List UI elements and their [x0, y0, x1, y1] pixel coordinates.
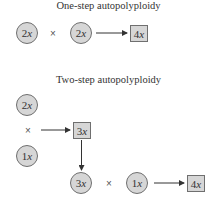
arrows-layer — [0, 0, 217, 205]
